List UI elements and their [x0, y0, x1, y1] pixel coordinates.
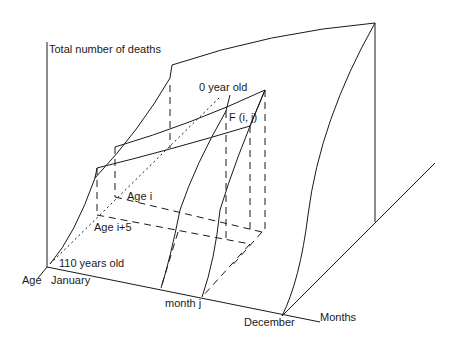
december-label: December	[244, 317, 295, 328]
age-axis-label: Age	[22, 275, 42, 286]
diagram-canvas: Total number of deaths 0 year old F (i, …	[0, 0, 455, 344]
age-zero-label: 0 year old	[199, 82, 247, 93]
month-j-curve-1	[161, 111, 226, 288]
month-j-curve-3	[226, 95, 230, 111]
point-label: F (i, j)	[229, 112, 257, 123]
december-curve	[282, 23, 375, 316]
age-max-label: 110 years old	[59, 258, 124, 269]
age-i5-label: Age i+5	[94, 222, 132, 233]
january-label: January	[51, 275, 90, 286]
y-axis-label: Total number of deaths	[49, 44, 161, 55]
age-i5-curve	[97, 126, 250, 168]
top-edge-curve	[170, 23, 375, 78]
january-curve	[50, 78, 170, 264]
age-diagonal	[50, 97, 220, 264]
month-j-label: month j	[165, 298, 201, 309]
months-axis-label: Months	[320, 312, 356, 323]
age-i-label: Age i	[127, 191, 152, 202]
